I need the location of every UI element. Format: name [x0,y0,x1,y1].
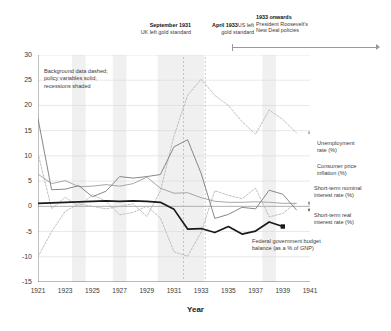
plot-note-line2: policy variables solid; [44,75,144,82]
x-axis-tick-label: 1927 [107,287,133,294]
y-axis-tick-label: -10 [10,253,32,260]
y-axis-tick-label: 30 [10,51,32,58]
y-axis-tick-label: 25 [10,76,32,83]
y-axis-tick-label: 20 [10,101,32,108]
annotation-1933-onwards-title: 1933 onwards [256,14,292,20]
chart-page: September 1931 UK left gold standard Apr… [0,0,391,331]
arrow-line [232,47,378,48]
plot-note: Background data dashed; policy variables… [44,68,144,90]
legend-cpi-line1: Consumer price [317,163,385,170]
annotation-september-1931: September 1931 UK left gold standard [123,22,191,35]
legend-marker [308,131,310,134]
annotation-1933-onwards: 1933 onwards President Roosevelt's New D… [256,14,346,34]
legend-cpi: Consumer price inflation (%) [317,163,385,177]
y-axis-tick-label: 0 [10,202,32,209]
annotation-september-1931-text: UK left gold standard [123,29,191,36]
y-axis-tick-label: -15 [10,278,32,285]
legend-nominal-rate-line2: interest rate (%) [314,192,382,199]
new-deal-period-arrow [232,44,380,51]
x-axis-tick-label: 1921 [25,287,51,294]
plot-note-line1: Background data dashed; [44,68,144,75]
legend-marker [308,209,310,212]
y-axis-tick-label: 15 [10,127,32,134]
legend-marker [308,202,310,205]
annotation-1933-onwards-text1: President Roosevelt's [256,21,346,28]
arrow-head-icon [376,44,380,50]
x-axis-tick-label: 1933 [188,287,214,294]
annotation-april-1933-title: April 1933 [212,22,238,28]
plot-note-line3: recessions shaded [44,83,144,90]
legend-real-rate: Short-term real interest rate (%) [314,212,382,226]
legend-real-rate-line2: interest rate (%) [314,219,382,226]
y-axis-tick-label: -5 [10,228,32,235]
x-axis-tick-label: 1941 [297,287,323,294]
series-end-marker [281,224,285,228]
annotation-april-1933: April 1933US left gold standard [192,22,254,35]
y-axis-tick-label: 10 [10,152,32,159]
legend-nominal-rate-line1: Short-term nominal [314,185,382,192]
legend-real-rate-line1: Short-term real [314,212,382,219]
x-axis-tick-label: 1929 [134,287,160,294]
legend-unemployment-line2: rate (%) [317,147,385,154]
annotation-1933-onwards-text2: New Deal policies [256,27,346,34]
x-axis-tick-label: 1935 [215,287,241,294]
legend-budget-balance-line1: Federal government budget [252,238,348,245]
legend-unemployment: Unemployment rate (%) [317,140,385,154]
legend-budget-balance-line2: balance (as a % of GNP) [252,245,348,252]
legend-nominal-rate: Short-term nominal interest rate (%) [314,185,382,199]
y-axis-tick-label: 5 [10,177,32,184]
annotation-april-1933-text: US left [238,22,254,28]
recession-band [158,55,204,282]
x-axis-title: Year [0,305,391,314]
x-axis-tick-label: 1925 [79,287,105,294]
annotation-september-1931-title: September 1931 [150,22,191,28]
legend-cpi-line2: inflation (%) [317,170,385,177]
x-axis-tick-label: 1939 [270,287,296,294]
x-axis-tick-label: 1931 [161,287,187,294]
x-axis-tick-label: 1937 [243,287,269,294]
annotation-april-1933-text2: gold standard [192,29,254,36]
legend-budget-balance: Federal government budget balance (as a … [252,238,348,252]
x-axis-tick-label: 1923 [52,287,78,294]
legend-unemployment-line1: Unemployment [317,140,385,147]
